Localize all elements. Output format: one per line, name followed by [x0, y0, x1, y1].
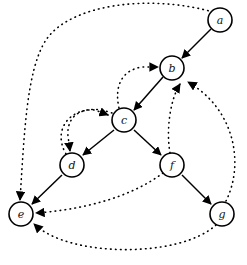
node-f[interactable]: f: [160, 153, 184, 177]
tree-edge-f-g: [182, 175, 211, 204]
extra-edge-f-e: [36, 173, 163, 213]
node-a-label: a: [217, 14, 224, 27]
tree-edge-c-d: [83, 130, 114, 155]
node-b-label: b: [168, 62, 175, 75]
tree-edge-b-c: [134, 77, 163, 110]
node-b[interactable]: b: [160, 56, 184, 80]
tree-edge-a-b: [182, 29, 211, 58]
extra-edge-d-c: [61, 110, 108, 154]
graph-svg: a b c d e f g: [0, 0, 247, 265]
node-e-label: e: [18, 208, 25, 221]
graph-canvas: a b c d e f g: [0, 0, 247, 265]
extra-edge-f-b: [168, 84, 180, 153]
extra-edge-c-d: [68, 109, 112, 151]
node-g-label: g: [218, 208, 225, 221]
extra-edge-c-b: [118, 67, 158, 108]
node-c-label: c: [121, 114, 127, 127]
extra-edge-a-e: [20, 3, 213, 200]
extra-edge-g-b: [188, 82, 235, 201]
node-e[interactable]: e: [9, 202, 33, 226]
node-d-label: d: [68, 159, 75, 172]
node-g[interactable]: g: [210, 202, 234, 226]
node-a[interactable]: a: [208, 8, 232, 32]
node-d[interactable]: d: [60, 153, 84, 177]
tree-edge-c-f: [134, 130, 161, 155]
tree-edge-d-e: [32, 175, 62, 204]
extra-edge-g-e: [34, 224, 216, 250]
node-c[interactable]: c: [112, 108, 136, 132]
